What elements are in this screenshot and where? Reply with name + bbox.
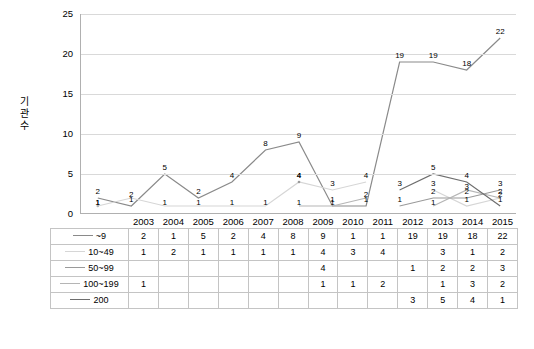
table-cell: 4: [308, 245, 338, 261]
data-point-label: 2: [364, 191, 368, 199]
table-cell: [368, 261, 398, 277]
table-cell: 1: [308, 277, 338, 293]
table-cell: [218, 261, 248, 277]
chart-figure: 기관 수 0510152025 215248911191918221211114…: [0, 0, 534, 349]
plot-grid: 2152489111919182212111143431241223111213…: [80, 14, 516, 214]
table-row: 10~49121111434312: [51, 245, 518, 261]
table-cell: [338, 261, 368, 277]
y-tick-label: 15: [62, 89, 73, 99]
table-cell: 18: [458, 229, 488, 245]
data-point-label: 5: [431, 164, 435, 172]
data-point-label: 1: [163, 199, 167, 207]
table-corner-cell: [51, 214, 129, 229]
x-axis-label: 2006: [218, 214, 248, 229]
table-cell: 1: [188, 245, 218, 261]
table-cell: 19: [428, 229, 458, 245]
table-cell: 2: [158, 245, 188, 261]
x-axis-label: 2015: [488, 214, 518, 229]
table-header-row: 2003200420052006200720082009201020112012…: [51, 214, 518, 229]
data-point-label: 1: [330, 199, 334, 207]
data-point-label: 1: [464, 196, 468, 204]
x-axis-label: 2010: [338, 214, 368, 229]
table-cell: [338, 293, 368, 309]
data-point-label: 3: [330, 180, 334, 188]
table-cell: 4: [458, 293, 488, 309]
y-tick-label: 25: [62, 9, 73, 19]
data-point-label: 4: [297, 172, 301, 180]
table-cell: [188, 277, 218, 293]
x-axis-label: 2011: [368, 214, 398, 229]
legend-label: 10~49: [88, 247, 113, 257]
table-cell: [218, 293, 248, 309]
data-point-label: 1: [263, 199, 267, 207]
table-cell: 2: [488, 277, 518, 293]
legend-item: 50~99: [51, 261, 129, 277]
x-axis-label: 2004: [158, 214, 188, 229]
table-cell: 19: [398, 229, 428, 245]
x-axis-label: 2012: [398, 214, 428, 229]
series-lines: [81, 14, 517, 214]
table-cell: [398, 277, 428, 293]
table-cell: 3: [338, 245, 368, 261]
legend-swatch-icon: [60, 283, 80, 284]
plot-area: 0510152025 21524891119191822121111434312…: [50, 14, 518, 224]
table-cell: 1: [488, 293, 518, 309]
table-cell: 1: [428, 277, 458, 293]
table-cell: [248, 277, 278, 293]
table-cell: [158, 293, 188, 309]
legend-label: 200: [93, 295, 108, 305]
gridline: [81, 14, 516, 15]
x-axis-label: 2003: [129, 214, 159, 229]
table-cell: [308, 293, 338, 309]
data-point-label: 3: [498, 180, 502, 188]
table-cell: 1: [458, 245, 488, 261]
y-axis-title: 기관 수: [16, 96, 32, 132]
table-cell: [129, 293, 159, 309]
data-point-label: 9: [297, 132, 301, 140]
data-point-label: 4: [364, 172, 368, 180]
legend-item: 10~49: [51, 245, 129, 261]
table-cell: 9: [308, 229, 338, 245]
data-point-label: 1: [297, 199, 301, 207]
table-cell: 2: [488, 245, 518, 261]
table-cell: 1: [248, 245, 278, 261]
table-cell: [129, 261, 159, 277]
table-cell: [158, 277, 188, 293]
table-cell: 4: [368, 245, 398, 261]
table-row: 50~9941223: [51, 261, 518, 277]
table-cell: 4: [308, 261, 338, 277]
data-point-label: 5: [163, 164, 167, 172]
table-cell: 5: [188, 229, 218, 245]
legend-label: ~9: [96, 231, 106, 241]
series-point-2: [298, 181, 301, 184]
table-cell: [278, 277, 308, 293]
table-cell: [248, 293, 278, 309]
table-cell: 1: [129, 245, 159, 261]
table-cell: [368, 293, 398, 309]
data-point-label: 4: [464, 172, 468, 180]
table-row: 2003541: [51, 293, 518, 309]
table-cell: 22: [488, 229, 518, 245]
table-cell: 2: [458, 261, 488, 277]
table-cell: 3: [428, 245, 458, 261]
table-cell: 3: [458, 277, 488, 293]
data-point-label: 18: [462, 60, 471, 68]
data-point-label: 22: [496, 28, 505, 36]
data-point-label: 1: [96, 199, 100, 207]
table-cell: 1: [338, 229, 368, 245]
data-point-label: 1: [397, 196, 401, 204]
table-cell: [398, 245, 428, 261]
legend-item: 200: [51, 293, 129, 309]
gridline: [81, 94, 516, 95]
data-point-label: 19: [429, 52, 438, 60]
table-cell: 3: [488, 261, 518, 277]
data-point-label: 4: [230, 172, 234, 180]
table-cell: [158, 261, 188, 277]
table-cell: 1: [158, 229, 188, 245]
legend-label: 50~99: [88, 263, 113, 273]
x-axis-label: 2007: [248, 214, 278, 229]
data-point-label: 2: [431, 188, 435, 196]
table-cell: [278, 293, 308, 309]
y-tick-label: 20: [62, 49, 73, 59]
table-row: 100~1991112132: [51, 277, 518, 293]
